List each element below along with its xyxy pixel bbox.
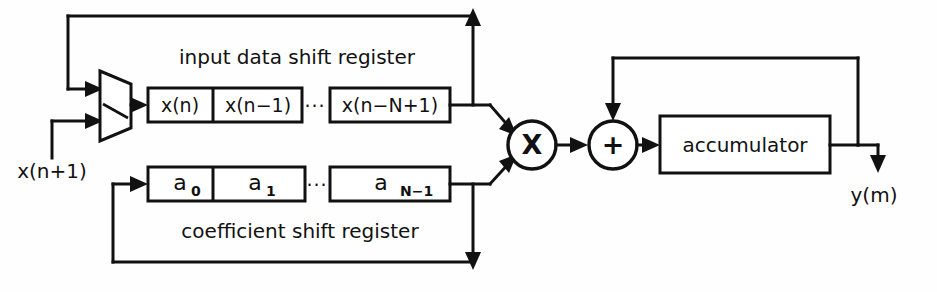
input-signal-label: x(n+1) <box>17 159 87 183</box>
multiplier-to-adder-wire <box>556 137 588 153</box>
multiplier-symbol: X <box>522 129 543 160</box>
input-register-caption: input data shift register <box>179 45 416 69</box>
adder-symbol: + <box>602 129 625 160</box>
adder-to-accumulator-wire <box>637 137 660 153</box>
data-cell-1-label: x(n−1) <box>225 94 291 116</box>
data-register-output-wire <box>450 105 517 136</box>
output-arrowhead <box>870 155 886 173</box>
fir-filter-diagram: x(n) x(n−1) x(n−N+1) ··· input data shif… <box>0 0 937 292</box>
multiplexer-block <box>100 71 131 141</box>
coef-register-ellipsis: ··· <box>306 174 327 196</box>
output-signal-label: y(m) <box>851 183 898 207</box>
coef-register-output-wire <box>450 154 517 184</box>
diagram-canvas: x(n) x(n−1) x(n−N+1) ··· input data shif… <box>0 0 937 292</box>
coef-cell-0-sub: 0 <box>191 183 201 199</box>
coef-cell-0-base: a <box>173 170 186 195</box>
data-cell-0-label: x(n) <box>161 94 199 116</box>
output-signal-wire <box>858 145 886 173</box>
input-data-shift-register: x(n) x(n−1) x(n−N+1) ··· <box>148 88 450 122</box>
coef-register-input-arrowhead <box>130 176 148 192</box>
data-cell-2-label: x(n−N+1) <box>342 94 438 116</box>
multiplier-block: X <box>508 121 556 169</box>
coefficient-register-caption: coefficient shift register <box>181 219 419 243</box>
coef-cell-1-sub: 1 <box>266 183 276 199</box>
adder-top-input-arrowhead <box>605 103 621 121</box>
input-signal-wire <box>52 113 103 158</box>
coef-cell-2-sub: N−1 <box>400 183 433 199</box>
coef-cell-1-base: a <box>248 170 261 195</box>
accumulator-input-arrowhead <box>642 137 660 153</box>
coef-register-group-left <box>148 167 305 201</box>
data-register-input-arrowhead <box>130 97 148 113</box>
accumulator-block: accumulator <box>660 116 830 173</box>
data-register-ellipsis: ··· <box>304 95 325 117</box>
adder-block: + <box>589 121 637 169</box>
coef-cell-2-base: a <box>374 170 387 195</box>
coefficient-shift-register: a 0 a 1 a N−1 ··· <box>148 167 450 201</box>
mux-output-wire <box>130 97 148 113</box>
adder-left-input-arrowhead <box>570 137 588 153</box>
accumulator-label: accumulator <box>682 133 808 157</box>
